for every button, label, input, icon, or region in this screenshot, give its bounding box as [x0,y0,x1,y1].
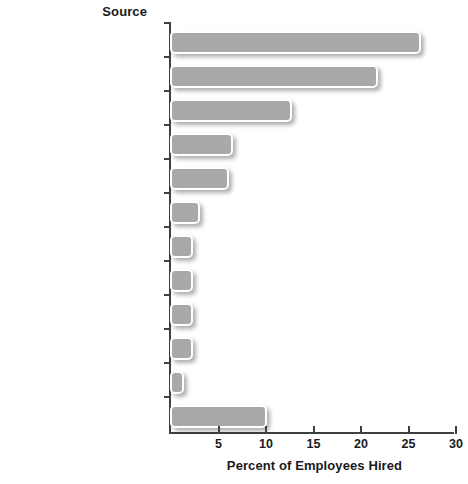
y-axis-tick [164,260,170,262]
x-axis-tick-label: 10 [246,437,286,451]
y-axis-tick [164,396,170,398]
y-axis-tick [164,90,170,92]
bar [170,201,200,224]
bar [170,405,267,428]
bar [170,65,378,88]
y-axis-tick [164,124,170,126]
x-axis-tick-label: 5 [199,437,239,451]
y-axis-tick [164,226,170,228]
y-axis-tick [164,56,170,58]
y-axis-tick [164,158,170,160]
x-axis-tick [360,426,362,434]
y-axis-title: Source [0,4,169,19]
bar [170,99,292,122]
x-axis-tick-label: 20 [341,437,381,451]
x-axis-tick-label: 15 [294,437,334,451]
bar [170,337,193,360]
x-axis-tick-label: 30 [436,437,468,451]
bar [170,31,421,54]
bar [170,303,193,326]
y-axis-title-text: Source [102,4,147,19]
y-axis-tick [164,328,170,330]
x-axis-tick-label: 25 [389,437,429,451]
bar [170,235,193,258]
plot-area: ReferralsCompany Web siteJob boardsDirec… [169,22,460,433]
x-axis-tick [218,426,220,434]
x-axis-tick [408,426,410,434]
bar [170,167,229,190]
x-axis-title: Percent of Employees Hired [169,458,460,473]
x-axis-tick [313,426,315,434]
y-axis-tick [164,22,170,24]
bar [170,133,233,156]
y-axis-tick [164,192,170,194]
bar [170,371,184,394]
x-axis-tick [455,426,457,434]
x-axis-tick [265,426,267,434]
y-axis-tick [164,362,170,364]
bar [170,269,193,292]
y-axis-tick [164,294,170,296]
